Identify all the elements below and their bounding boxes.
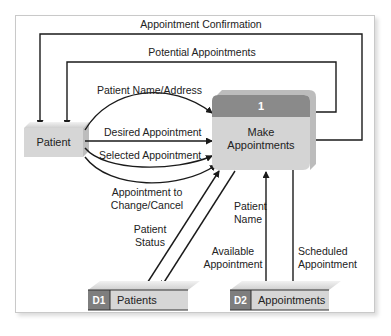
flow-label: Appointment Confirmation <box>140 18 262 30</box>
flow-selected-appointment: Selected Appointment <box>85 148 212 167</box>
flow-label: Available <box>212 245 255 257</box>
flow-label: Appointment <box>298 258 357 270</box>
flow-label: Patient Name/Address <box>97 84 202 96</box>
store-label: Patients <box>117 294 157 306</box>
data-flow-diagram: Appointment Confirmation Potential Appoi… <box>0 0 391 336</box>
flow-label: Status <box>135 236 165 248</box>
data-store-d1-patients[interactable]: D1 Patients <box>88 281 200 310</box>
flow-label: Potential Appointments <box>148 46 255 58</box>
flow-appointment-to-change-cancel: Appointment to Change/Cancel <box>85 157 216 211</box>
flow-label: Appointment <box>204 258 263 270</box>
flow-label: Patient <box>134 223 167 235</box>
process-id: 1 <box>258 100 264 112</box>
flow-label: Appointment to <box>112 186 183 198</box>
store-id: D2 <box>234 295 247 306</box>
flow-label: Scheduled <box>298 245 348 257</box>
flow-label: Change/Cancel <box>111 199 183 211</box>
process-label: Make <box>248 126 275 138</box>
flow-scheduled-appointment: Scheduled Appointment <box>293 170 357 288</box>
flow-label: Desired Appointment <box>104 126 202 138</box>
store-id: D1 <box>93 295 106 306</box>
flow-available-appointment: Available Appointment <box>204 172 266 288</box>
store-label: Appointments <box>258 294 326 306</box>
flow-label: Patient <box>234 200 267 212</box>
flow-label: Selected Appointment <box>99 149 201 161</box>
external-entity-patient[interactable]: Patient <box>24 122 89 157</box>
entity-label: Patient <box>36 136 70 148</box>
process-label: Appointments <box>227 139 295 151</box>
flow-patient-name-address: Patient Name/Address <box>85 84 212 130</box>
flow-desired-appointment: Desired Appointment <box>85 126 212 141</box>
flow-label: Name <box>234 213 262 225</box>
process-make-appointments[interactable]: 1 Make Appointments <box>212 90 316 170</box>
data-store-d2-appointments[interactable]: D2 Appointments <box>230 281 341 310</box>
